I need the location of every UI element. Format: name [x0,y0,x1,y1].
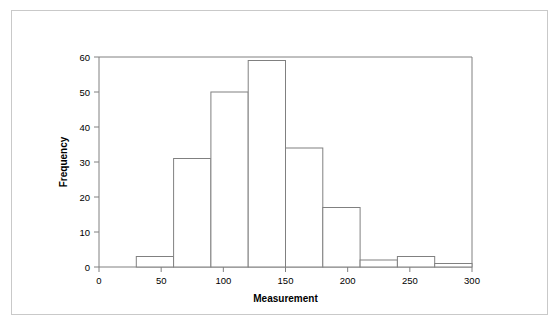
y-tick-label: 20 [79,192,90,203]
x-axis-title: Measurement [253,293,318,304]
y-tick-label: 30 [79,157,90,168]
x-tick-label: 300 [464,275,480,286]
x-tick-label: 250 [402,275,418,286]
y-axis: 0102030405060 [79,52,99,273]
y-tick-label: 40 [79,122,90,133]
histogram-bar [211,92,248,267]
histogram-bar [286,148,323,267]
y-axis-title: Frequency [58,136,69,187]
y-tick-label: 10 [79,227,90,238]
y-tick-label: 50 [79,87,90,98]
y-tick-label: 0 [85,262,90,273]
x-axis: 050100150200250300 [96,267,480,286]
x-tick-label: 0 [96,275,101,286]
histogram-figure: 0102030405060050100150200250300Measureme… [0,0,560,328]
x-tick-label: 200 [340,275,356,286]
histogram-bar [174,159,211,268]
bars-group [136,61,472,268]
histogram-bar [323,208,360,268]
x-tick-label: 100 [215,275,231,286]
y-tick-label: 60 [79,52,90,63]
x-tick-label: 150 [278,275,294,286]
histogram-bar [360,260,397,267]
histogram-bar [248,61,285,268]
histogram-bar [435,264,472,268]
histogram-bar [397,257,434,268]
histogram-bar [136,257,173,268]
histogram-chart: 0102030405060050100150200250300Measureme… [0,0,560,328]
x-tick-label: 50 [156,275,167,286]
